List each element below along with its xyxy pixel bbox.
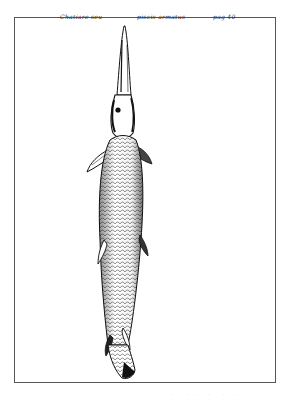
fish-illustration <box>0 0 291 403</box>
fish-snout <box>117 26 131 95</box>
plate-page: Chatiare seu piscis armatus pag 40 <box>0 0 291 403</box>
fish-head <box>111 95 135 138</box>
fish-body <box>99 136 143 346</box>
footer-marks: · ·· · · · <box>172 392 245 397</box>
fish-eye <box>115 107 120 112</box>
fish-tail <box>108 345 135 379</box>
